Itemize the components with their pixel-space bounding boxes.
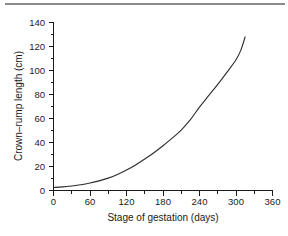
y-tick-label: 40 xyxy=(34,137,45,148)
figure-container: 0 20 40 60 80 100 120 140 0 60 120 180 2… xyxy=(0,0,288,236)
y-tick-label: 20 xyxy=(34,161,45,172)
y-tick-label: 120 xyxy=(29,41,45,52)
x-tick-label: 300 xyxy=(228,196,244,207)
axis-lines xyxy=(54,22,273,191)
y-tick-label: 100 xyxy=(29,65,45,76)
x-tick-label: 240 xyxy=(192,196,208,207)
x-axis-major-ticks xyxy=(54,191,273,196)
y-axis-tick-labels: 0 20 40 60 80 100 120 140 xyxy=(29,17,45,196)
x-tick-label: 0 xyxy=(51,196,56,207)
y-tick-label: 140 xyxy=(29,17,45,28)
y-tick-label: 0 xyxy=(40,185,45,196)
x-tick-label: 120 xyxy=(119,196,135,207)
x-tick-label: 60 xyxy=(85,196,96,207)
y-axis-title: Crown–rump length (cm) xyxy=(13,51,24,161)
x-axis-tick-labels: 0 60 120 180 240 300 360 xyxy=(51,196,281,207)
chart-plot-area: 0 20 40 60 80 100 120 140 0 60 120 180 2… xyxy=(0,0,288,236)
y-tick-label: 60 xyxy=(34,113,45,124)
y-tick-label: 80 xyxy=(34,89,45,100)
x-axis-title: Stage of gestation (days) xyxy=(107,212,218,223)
x-tick-label: 360 xyxy=(265,196,281,207)
x-tick-label: 180 xyxy=(155,196,171,207)
crown-rump-length-curve xyxy=(54,37,246,188)
